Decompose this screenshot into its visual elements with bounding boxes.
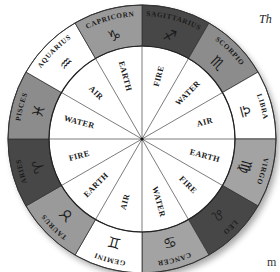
- center-dot: [140, 137, 143, 140]
- caption-top-right: Th: [259, 12, 272, 27]
- zodiac-wheel: SAGITTARIUS♐SCORPIO♏LIBRA♎VIRGO♍LEO♌CANC…: [0, 0, 280, 272]
- caption-bottom-right: m: [267, 255, 276, 270]
